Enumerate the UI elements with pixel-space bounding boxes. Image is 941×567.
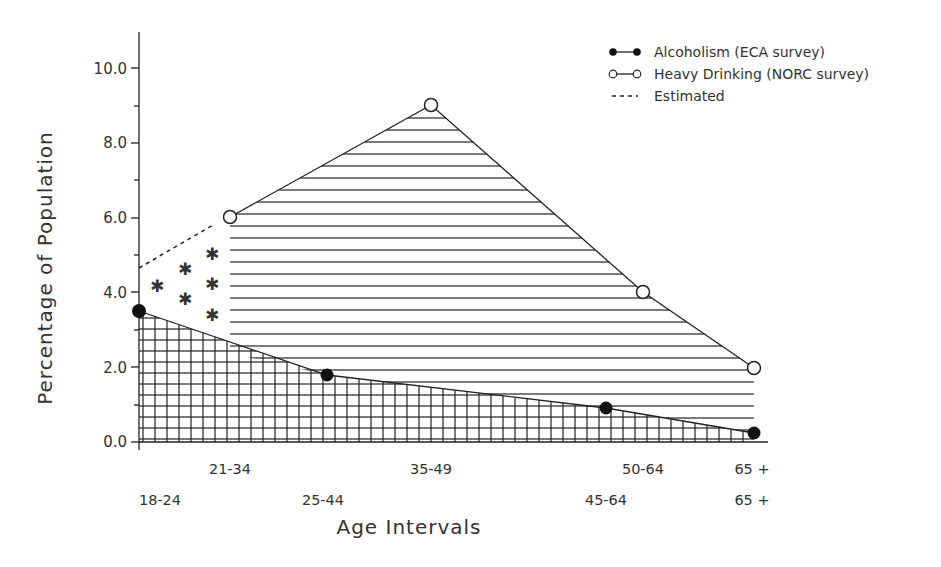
legend-item-alcoholism: Alcoholism (ECA survey) (609, 44, 825, 60)
svg-text:✱: ✱ (150, 276, 164, 296)
open-circle-marker (637, 286, 650, 299)
filled-circle-icon (609, 48, 617, 56)
y-tick-0: 0.0 (103, 433, 127, 451)
x-tick-lower: 18-24 (139, 492, 181, 508)
open-circle-marker (425, 99, 438, 112)
filled-circle-icon (633, 48, 641, 56)
filled-circle-marker (132, 304, 146, 318)
y-tick-2: 2.0 (103, 359, 127, 377)
open-circle-icon (609, 70, 617, 78)
y-axis-label: Percentage of Population (33, 131, 57, 405)
open-circle-marker (748, 362, 761, 375)
y-axis (131, 32, 139, 450)
svg-text:✱: ✱ (178, 259, 192, 279)
legend-item-estimated: Estimated (612, 88, 725, 104)
x-tick-upper: 21-34 (209, 461, 251, 477)
filled-circle-marker (321, 369, 334, 382)
x-tick-upper: 65 + (734, 461, 769, 477)
x-tick-upper: 50-64 (622, 461, 664, 477)
svg-text:Alcoholism (ECA survey): Alcoholism (ECA survey) (654, 44, 825, 60)
svg-text:Estimated: Estimated (654, 88, 725, 104)
svg-text:✱: ✱ (205, 305, 219, 325)
chart: 0.0 2.0 4.0 6.0 8.0 10.0 Percentage of P… (0, 0, 941, 567)
filled-circle-marker (748, 427, 761, 440)
legend: Alcoholism (ECA survey) Heavy Drinking (… (609, 44, 869, 104)
svg-text:✱: ✱ (178, 289, 192, 309)
y-tick-10: 10.0 (94, 60, 127, 78)
y-tick-labels: 0.0 2.0 4.0 6.0 8.0 10.0 (94, 60, 127, 451)
y-tick-4: 4.0 (103, 284, 127, 302)
open-circle-marker (224, 211, 237, 224)
legend-item-heavy-drinking: Heavy Drinking (NORC survey) (609, 66, 869, 82)
x-tick-lower: 25-44 (302, 492, 344, 508)
svg-text:✱: ✱ (205, 274, 219, 294)
svg-text:✱: ✱ (205, 244, 219, 264)
x-tick-lower: 65 + (734, 492, 769, 508)
y-tick-8: 8.0 (103, 134, 127, 152)
x-tick-labels: 21-34 35-49 50-64 65 + 18-24 25-44 45-64… (139, 461, 770, 508)
y-tick-6: 6.0 (103, 209, 127, 227)
x-axis-label: Age Intervals (336, 515, 481, 539)
open-circle-icon (633, 70, 641, 78)
x-tick-upper: 35-49 (410, 461, 452, 477)
x-tick-lower: 45-64 (585, 492, 627, 508)
svg-text:Heavy Drinking (NORC survey): Heavy Drinking (NORC survey) (654, 66, 869, 82)
filled-circle-marker (600, 402, 613, 415)
